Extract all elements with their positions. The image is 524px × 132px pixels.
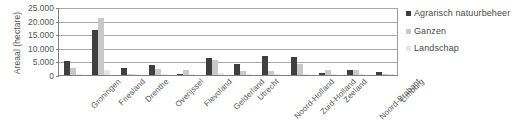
x-tick-label: Drenthe [143,77,170,104]
bar-group [201,8,229,75]
legend-label: Agrarisch natuurbeheer [414,8,510,19]
bar-group [371,8,399,75]
bar-chart: Areaal (hectare) 25.00020.00015.00010.00… [0,0,524,132]
bar-group [144,8,172,75]
bar [133,74,139,75]
bars-layer [59,8,398,75]
plot-area [58,8,398,76]
bar [359,74,365,75]
bar [274,74,280,75]
y-tick-label: 15.000 [14,31,54,39]
bar-group [257,8,285,75]
legend-label: Landschap [414,43,459,54]
legend-item[interactable]: Ganzen [406,26,522,37]
bar [189,74,195,75]
bar-group [229,8,257,75]
bar-group [87,8,115,75]
bar [161,74,167,75]
bar-group [116,8,144,75]
y-tick-label: 20.000 [14,18,54,26]
y-axis-tick-labels: 25.00020.00015.00010.0005.0000 [14,8,54,76]
bar-group [286,8,314,75]
bar [388,74,394,75]
x-axis-tick-labels: GroningenFrieslandDrentheOverijsselFlevo… [58,77,398,132]
x-tick-label: Flevoland [202,77,234,109]
y-tick-label: 10.000 [14,45,54,53]
legend-swatch-icon [406,46,411,51]
legend-item[interactable]: Agrarisch natuurbeheer [406,8,522,19]
bar-group [314,8,342,75]
bar [246,74,252,75]
y-tick-label: 0 [14,72,54,80]
chart-legend: Agrarisch natuurbeheerGanzenLandschap [406,8,522,61]
y-tick-label: 25.000 [14,4,54,12]
y-tick-label: 5.000 [14,58,54,66]
bar-group [59,8,87,75]
bar [104,70,110,75]
legend-swatch-icon [406,11,411,16]
bar [303,74,309,75]
bar-group [342,8,370,75]
bar [218,73,224,75]
legend-label: Ganzen [414,26,446,37]
bar [331,74,337,75]
x-tick-label: Groningen [89,77,122,110]
legend-item[interactable]: Landschap [406,43,522,54]
bar [98,18,104,75]
legend-swatch-icon [406,29,411,34]
bar-group [172,8,200,75]
x-tick-label: Overijssel [174,77,206,109]
bar [76,74,82,75]
